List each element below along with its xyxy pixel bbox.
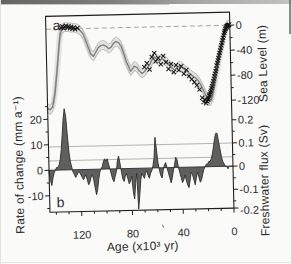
svg-text:40: 40: [177, 226, 190, 238]
scanned-figure: 120804000-40-80-12020100-100.20.10-0.1-0…: [0, 0, 292, 264]
panel-b-label: b: [57, 194, 65, 210]
panel-a-label: a: [53, 17, 61, 33]
svg-text:0: 0: [239, 160, 245, 172]
scan-speck: [162, 225, 164, 228]
svg-text:0: 0: [37, 164, 43, 176]
svg-text:20: 20: [29, 113, 42, 125]
svg-text:0.1: 0.1: [238, 136, 254, 148]
svg-text:80: 80: [127, 227, 140, 239]
svg-text:-0.2: -0.2: [240, 204, 259, 216]
figure: 120804000-40-80-12020100-100.20.10-0.1-0…: [7, 1, 285, 263]
svg-text:-80: -80: [237, 69, 253, 81]
svg-text:120: 120: [73, 228, 92, 240]
y-axis-label-rate-of-change: Rate of change (mm a⁻¹): [10, 96, 27, 234]
svg-text:-0.1: -0.1: [239, 183, 258, 195]
rate-of-change-area: [48, 105, 234, 211]
svg-text:0: 0: [236, 19, 242, 31]
y-axis-label-freshwater-flux: Freshwater flux (Sv): [256, 125, 273, 237]
svg-text:-40: -40: [236, 44, 252, 56]
scan-artifact-right-edge: [291, 0, 292, 264]
x-axis-label-age: Age (x10³ yr): [107, 238, 179, 254]
two-panel-chart: 120804000-40-80-12020100-100.20.10-0.1-0…: [7, 1, 285, 263]
svg-text:-10: -10: [28, 190, 44, 202]
svg-text:0: 0: [231, 225, 237, 237]
flux-reference-lines: [48, 143, 232, 161]
scan-artifact-left-edge: [0, 0, 1, 264]
svg-text:0.2: 0.2: [238, 113, 254, 125]
y-axis-label-sea-level: Sea Level (m): [255, 25, 271, 103]
svg-text:10: 10: [30, 139, 43, 151]
